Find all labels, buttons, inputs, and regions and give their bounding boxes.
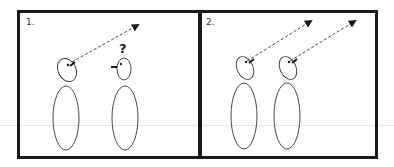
eye-icon [288,61,290,63]
head-icon [233,54,258,83]
gaze-arrow-icon [247,21,311,61]
gaze-arrow-icon [290,21,355,61]
head-icon [276,54,301,83]
eye-icon [120,63,122,65]
body-icon [274,83,300,149]
eye-icon [67,64,69,66]
panel-1-figure-observer: ? [111,41,138,150]
body-icon [53,86,79,150]
head-icon [54,55,80,84]
body-icon [231,83,257,149]
eye-icon [245,61,247,63]
head-icon [117,58,131,80]
panel-2-figure-follower [274,21,355,149]
diagram-canvas: ? [0,0,394,167]
question-mark-icon: ? [119,41,127,56]
body-icon [112,86,138,150]
gaze-arrow-icon [72,25,138,62]
